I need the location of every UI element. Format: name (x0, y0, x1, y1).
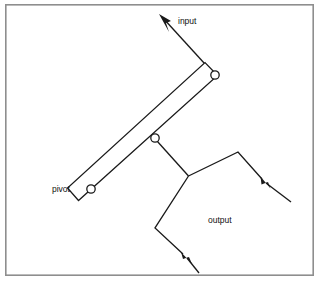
output-label: output (208, 215, 232, 225)
linkage-diagram-figure: input pivot output (0, 0, 322, 284)
input-label: input (178, 16, 197, 26)
diagram-canvas: input pivot output (0, 0, 322, 284)
pivot-joint-icon (87, 185, 95, 193)
input-joint-icon (211, 71, 219, 79)
diagram-frame (6, 5, 313, 275)
mid-joint-icon (151, 134, 159, 142)
pivot-label: pivot (52, 184, 71, 194)
